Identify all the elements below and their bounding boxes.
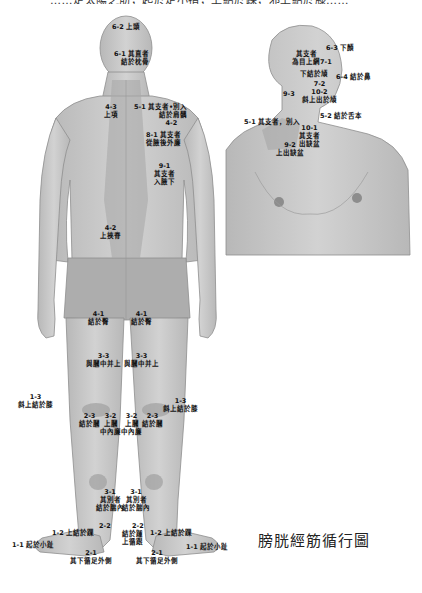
label-2-1-right: 2-1其下循足外側 (136, 549, 178, 565)
label-9-1-line2: 其支者 (154, 170, 175, 178)
label-10-1-line2: 其支者 (299, 132, 320, 140)
label-6-1: 6-1 其直者結於枕骨 (114, 50, 149, 66)
label-4-1-right-line1: 4-1 (131, 310, 152, 318)
label-1-3-left-line2: 斜上結於膝 (18, 401, 53, 409)
label-9-2-line2: 上出缺盆 (276, 149, 304, 157)
label-5-2: 5-2 結於舌本 (320, 112, 362, 120)
label-3-3-left-line1: 3-3 (86, 352, 121, 360)
label-3-2-right-line1: 3-2 (121, 412, 142, 420)
label-3-1-right: 3-1其別者結於腨內 (122, 488, 150, 512)
label-3-3-right-line1: 3-3 (124, 352, 159, 360)
label-3-2-right-line3: 中內廉 (121, 428, 142, 436)
label-9-3: 9-3 (283, 90, 295, 98)
label-4-2-shoulder: 4-2 (134, 119, 187, 127)
label-3-2-right-line2: 上膕 (121, 420, 142, 428)
anatomy-illustration (0, 0, 422, 593)
label-1-3-right-line2: 斜上結於膝 (163, 405, 198, 413)
label-2-1-left-line2: 其下循足外側 (70, 557, 112, 565)
label-7-1-line2: 為目上網7-1 (292, 58, 332, 66)
label-7-1-line1: 其支者 (292, 50, 332, 58)
label-2-3-left: 2-3結於膕 (79, 412, 100, 428)
label-7-2: 7-210-2斜上出於頄 (302, 80, 337, 104)
label-4-1-left: 4-1結於臀 (88, 310, 109, 326)
label-8-1-line1: 8-1 其支者 (146, 131, 181, 139)
label-1-3-left-line1: 1-3 (18, 393, 53, 401)
label-9-2-line1: 9-2 (276, 141, 304, 149)
label-2-3-right-line2: 結於膕 (142, 420, 163, 428)
label-2-1-left-line1: 2-1 (70, 549, 112, 557)
label-10-1-line1: 10-1 (299, 124, 320, 132)
label-3-1-left-line3: 結於腨內 (96, 504, 124, 512)
label-3-1-right-line2: 其別者 (122, 496, 150, 504)
label-2-3-right-line1: 2-3 (142, 412, 163, 420)
label-3-3-right: 3-3與膕中并上 (124, 352, 159, 368)
label-4-1-right: 4-1結於臀 (131, 310, 152, 326)
label-1-2-right: 1-2 上結於踝 (150, 529, 192, 537)
label-9-1-line3: 入腋下 (154, 178, 175, 186)
label-3-1-left-line1: 3-1 (96, 488, 124, 496)
label-3-1-left: 3-1其別者結於腨內 (96, 488, 124, 512)
label-1-1-left: 1-1 起於小趾 (12, 541, 54, 549)
label-6-1-line2: 結於枕骨 (114, 58, 149, 66)
label-3-3-right-line2: 與膕中并上 (124, 360, 159, 368)
label-1-1-right: 1-1 起於小趾 (186, 543, 228, 551)
label-7-2-line1: 7-2 (302, 80, 337, 88)
label-2-3-right: 2-3結於膕 (142, 412, 163, 428)
label-6-4: 6-4 結於鼻 (336, 73, 371, 81)
label-2-2-left: 2-2 (99, 522, 111, 530)
label-3-1-right-line1: 3-1 (122, 488, 150, 496)
label-6-2: 6-2 上頭 (112, 23, 140, 31)
label-2-1-right-line2: 其下循足外側 (136, 557, 178, 565)
label-3-1-left-line2: 其別者 (96, 496, 124, 504)
label-4-2-line2: 上挾脊 (100, 232, 121, 240)
label-4-3: 4-3上項 (104, 103, 118, 119)
label-5-1-line1: 5-1 其支者•別入 (134, 103, 187, 111)
label-3-2-right: 3-2上膕中內廉 (121, 412, 142, 436)
label-3-1-right-line3: 結於腨內 (122, 504, 150, 512)
label-3-2-left-line1: 3-2 (100, 412, 121, 420)
label-4-3-line2: 上項 (104, 111, 118, 119)
label-2-2-right-line2: 結於踵 (122, 530, 144, 538)
label-7-2-line3: 斜上出於頄 (302, 96, 337, 104)
label-4-3-line1: 4-3 (104, 103, 118, 111)
diagram-caption: 膀胱經筋循行圖 (258, 529, 370, 550)
label-7-2-head: 下結於頄 (300, 70, 328, 78)
label-4-1-left-line2: 結於臀 (88, 318, 109, 326)
label-5-1-line2: 結於肩髃 (134, 111, 187, 119)
label-9-1: 9-1其支者入腋下 (154, 162, 175, 186)
label-4-2: 4-2上挾脊 (100, 224, 121, 240)
label-1-2-left: 1-2 上結於踝 (52, 529, 94, 537)
label-2-2-right: 2-2結於踵上循跟 (122, 522, 144, 546)
label-8-1-line2: 從腋後外廉 (146, 139, 181, 147)
label-2-1-left: 2-1其下循足外側 (70, 549, 112, 565)
label-9-2: 9-2上出缺盆 (276, 141, 304, 157)
label-4-2-line1: 4-2 (100, 224, 121, 232)
label-8-1: 8-1 其支者從腋後外廉 (146, 131, 181, 147)
label-3-3-left: 3-3與膕中并上 (86, 352, 121, 368)
label-3-3-left-line2: 與膕中并上 (86, 360, 121, 368)
label-7-2-line2: 10-2 (302, 88, 337, 96)
label-5-1: 5-1 其支者•別入結於肩髃4-2 (134, 103, 187, 127)
label-7-1: 其支者為目上網7-1 (292, 50, 332, 66)
label-3-2-left-line3: 中內廉 (100, 428, 121, 436)
label-4-1-right-line2: 結於臀 (131, 318, 152, 326)
label-4-1-left-line1: 4-1 (88, 310, 109, 318)
label-5-1-front: 5-1 其支者，別入 (244, 118, 300, 126)
label-6-1-line1: 6-1 其直者 (114, 50, 149, 58)
label-2-3-left-line1: 2-3 (79, 412, 100, 420)
label-1-3-right-line1: 1-3 (163, 397, 198, 405)
label-2-2-right-line1: 2-2 (122, 522, 144, 530)
label-1-3-right: 1-3斜上結於膝 (163, 397, 198, 413)
label-1-3-left: 1-3斜上結於膝 (18, 393, 53, 409)
label-3-2-left-line2: 上膕 (100, 420, 121, 428)
label-2-2-right-line3: 上循跟 (122, 538, 144, 546)
label-9-1-line1: 9-1 (154, 162, 175, 170)
label-3-2-left: 3-2上膕中內廉 (100, 412, 121, 436)
label-2-1-right-line1: 2-1 (136, 549, 178, 557)
label-2-3-left-line2: 結於膕 (79, 420, 100, 428)
